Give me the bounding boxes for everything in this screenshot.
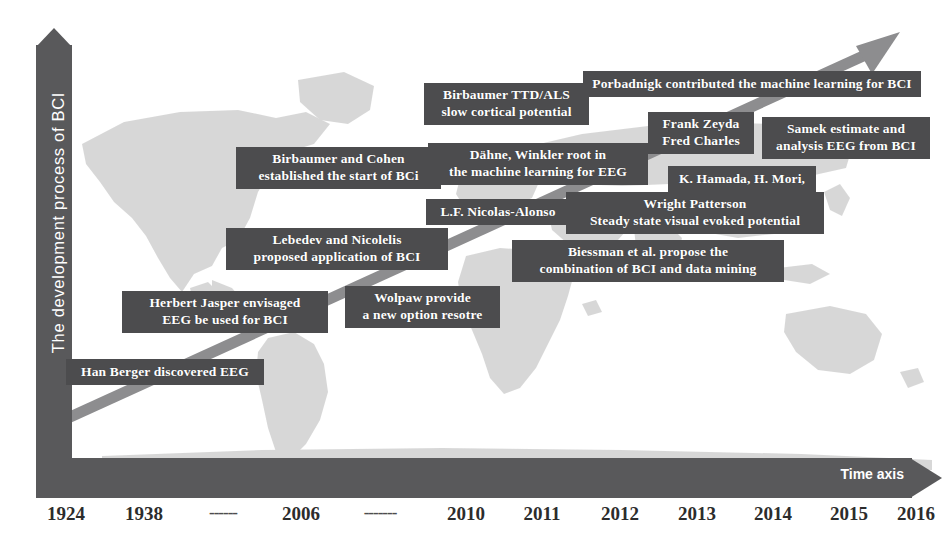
year-tick-2014: 2014: [754, 503, 792, 525]
event-wright-patterson: Wright Patterson Steady state visual evo…: [566, 192, 824, 234]
year-tick-ellipsis-4: -------: [364, 503, 397, 523]
event-birbaumer-ttd-als: Birbaumer TTD/ALS slow cortical potentia…: [424, 83, 589, 125]
year-tick-2011: 2011: [524, 503, 561, 525]
event-hamada-mori: K. Hamada, H. Mori,: [668, 166, 816, 192]
year-tick-1938: 1938: [125, 503, 163, 525]
event-dahne-winkler: Dähne, Winkler root in the machine learn…: [428, 143, 648, 185]
event-nicolas-alonso: L.F. Nicolas-Alonso: [426, 199, 570, 225]
event-herbert-jasper: Herbert Jasper envisaged EEG be used for…: [122, 291, 328, 333]
year-tick-1924: 1924: [47, 503, 85, 525]
timeline-figure: The development process of BCI Time axis…: [0, 0, 946, 546]
event-biessman: Biessman et al. propose the combination …: [512, 240, 784, 282]
x-axis-label: Time axis: [840, 466, 904, 482]
year-tick-2015: 2015: [830, 503, 868, 525]
event-han-berger: Han Berger discovered EEG: [66, 359, 264, 385]
event-frank-zeyda: Frank Zeyda Fred Charles: [648, 112, 754, 154]
y-axis-arrow: The development process of BCI: [36, 28, 72, 474]
x-axis-shaft: [36, 458, 912, 498]
year-tick-2010: 2010: [447, 503, 485, 525]
event-birbaumer-cohen: Birbaumer and Cohen established the star…: [236, 147, 441, 189]
event-samek: Samek estimate and analysis EEG from BCI: [762, 117, 930, 159]
y-axis-label: The development process of BCI: [49, 21, 68, 425]
year-tick-2006: 2006: [282, 503, 320, 525]
year-tick-2016: 2016: [897, 503, 935, 525]
year-tick-ellipsis-2: ------: [209, 503, 237, 523]
event-wolpaw: Wolpaw provide a new option resotre: [345, 286, 500, 328]
year-tick-2013: 2013: [678, 503, 716, 525]
event-lebedev-nicolelis: Lebedev and Nicolelis proposed applicati…: [226, 228, 448, 270]
x-axis-arrow: Time axis: [36, 458, 942, 498]
year-tick-2012: 2012: [601, 503, 639, 525]
event-porbadnigk: Porbadnigk contributed the machine learn…: [583, 71, 921, 97]
x-axis-arrowhead: [910, 458, 942, 498]
